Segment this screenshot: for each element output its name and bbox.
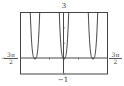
curve-branch xyxy=(30,13,39,59)
x-min-label: − 3π 2 xyxy=(4,52,18,65)
x-min-denominator: 2 xyxy=(4,59,18,65)
function-curves xyxy=(30,13,97,59)
plot-area xyxy=(0,0,124,86)
x-min-sign: − xyxy=(1,55,6,61)
curve-branch xyxy=(88,13,97,59)
curve-branch xyxy=(59,13,68,59)
y-max-label: 3 xyxy=(60,3,68,10)
x-max-denominator: 2 xyxy=(109,59,122,65)
x-max-label: 3π 2 xyxy=(109,52,122,65)
y-min-label: −1 xyxy=(57,77,69,84)
